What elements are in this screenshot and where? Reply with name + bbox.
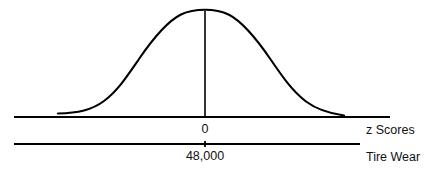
tire-wear-axis-label: Tire Wear [366,150,420,164]
z-score-axis-label: z Scores [366,123,415,137]
figure-canvas: 0 48,000 z Scores Tire Wear [0,0,427,179]
normal-curve-figure: 0 48,000 z Scores Tire Wear [0,0,427,179]
normal-distribution-curve [58,10,344,116]
tire-wear-center-tick-label: 48,000 [186,149,224,163]
z-score-center-tick-label: 0 [202,122,209,136]
